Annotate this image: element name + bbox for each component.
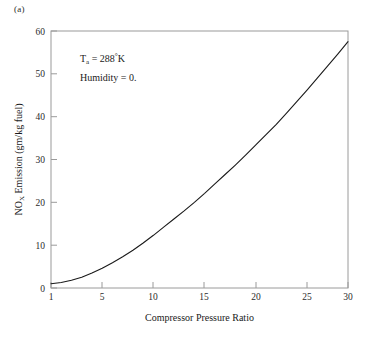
- y-tick-label: 20: [36, 198, 46, 208]
- x-axis-title: Compressor Pressure Ratio: [145, 312, 254, 323]
- y-tick-label: 0: [40, 284, 45, 294]
- y-tick-label: 40: [36, 112, 46, 122]
- x-axis-tick-labels: 1 5 10 15 20 25 30: [49, 292, 353, 302]
- y-tick-label: 30: [36, 155, 46, 165]
- x-tick-label: 30: [343, 292, 353, 302]
- y-axis-title: NOX Emission (gm/kg fuel): [13, 103, 26, 215]
- y-tick-label: 10: [36, 241, 46, 251]
- figure-container: (a) 1 5 10 15 20 25 30: [0, 0, 365, 338]
- annotation-humidity: Humidity = 0.: [80, 72, 136, 83]
- x-tick-label: 20: [251, 292, 261, 302]
- y-tick-label: 50: [36, 69, 46, 79]
- y-tick-label: 60: [36, 27, 46, 37]
- x-tick-label: 5: [100, 292, 105, 302]
- x-tick-label: 25: [302, 292, 312, 302]
- x-tick-label: 1: [49, 292, 54, 302]
- plot-frame: [51, 31, 348, 288]
- y-axis-tick-labels: 0 10 20 30 40 50 60: [36, 27, 46, 294]
- x-tick-label: 10: [148, 292, 158, 302]
- chart-plot: 1 5 10 15 20 25 30 0 10 20 30 40 50 60: [0, 0, 365, 338]
- x-tick-label: 15: [199, 292, 209, 302]
